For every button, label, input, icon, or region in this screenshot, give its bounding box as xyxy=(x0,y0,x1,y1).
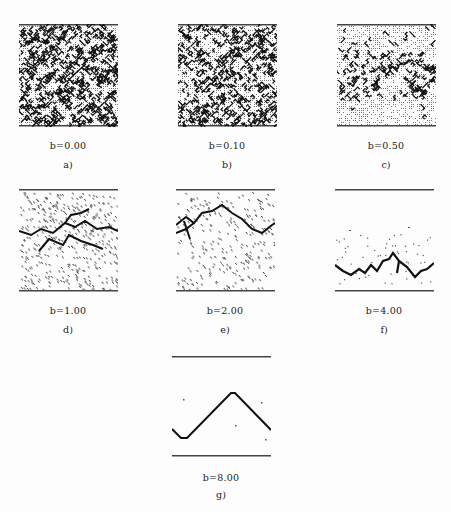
label-g: g) xyxy=(161,489,281,500)
caption-b: b=0.10 xyxy=(167,140,287,151)
caption-a: b=0.00 xyxy=(8,140,128,151)
panel-d xyxy=(19,189,118,292)
lattice-image-f xyxy=(335,189,434,292)
caption-c: b=0.50 xyxy=(326,140,446,151)
label-a: a) xyxy=(8,159,128,170)
lattice-image-g xyxy=(172,354,271,457)
panel-g xyxy=(172,354,271,457)
lattice-image-c xyxy=(337,24,436,127)
panel-f xyxy=(335,189,434,292)
lattice-image-e xyxy=(176,189,275,292)
lattice-image-a xyxy=(19,24,118,127)
panel-a xyxy=(19,24,118,127)
label-d: d) xyxy=(8,324,128,335)
label-e: e) xyxy=(165,324,285,335)
label-c: c) xyxy=(326,159,446,170)
caption-e: b=2.00 xyxy=(165,305,285,316)
label-f: f) xyxy=(324,324,444,335)
caption-g: b=8.00 xyxy=(161,472,281,483)
panel-e xyxy=(176,189,275,292)
lattice-image-b xyxy=(178,24,277,127)
caption-f: b=4.00 xyxy=(324,305,444,316)
lattice-image-d xyxy=(19,189,118,292)
label-b: b) xyxy=(167,159,287,170)
caption-d: b=1.00 xyxy=(8,305,128,316)
panel-b xyxy=(178,24,277,127)
panel-c xyxy=(337,24,436,127)
